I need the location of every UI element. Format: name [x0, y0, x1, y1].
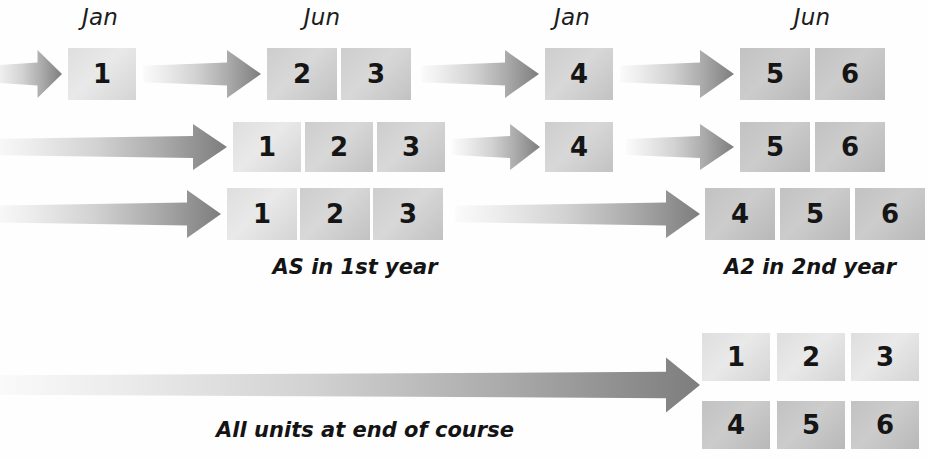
- summary-unit-box-2: 2: [777, 333, 845, 381]
- row-3-unit-box-4: 4: [705, 188, 775, 240]
- row-3-unit-box-6: 6: [855, 188, 925, 240]
- caption-as-first-year: AS in 1st year: [245, 255, 465, 279]
- summary-unit-box-5: 5: [777, 401, 845, 449]
- arrow-all-units: [0, 355, 700, 415]
- caption-all-units: All units at end of course: [195, 418, 535, 442]
- row-3-unit-box-2: 2: [300, 188, 370, 240]
- row-3-unit-box-1: 1: [227, 188, 297, 240]
- summary-unit-box-4: 4: [702, 401, 770, 449]
- summary-unit-box-1: 1: [702, 333, 770, 381]
- arrow-to-units-1-2-3: [0, 188, 221, 240]
- row-3-unit-box-5: 5: [780, 188, 850, 240]
- caption-a2-second-year: A2 in 2nd year: [700, 255, 920, 279]
- summary-unit-box-3: 3: [851, 333, 919, 381]
- arrow-to-units-4-5-6: [455, 188, 700, 240]
- row-3-unit-box-3: 3: [373, 188, 443, 240]
- unit-timeline-diagram: JanJunJanJun 123456123456123456 AS in 1s…: [0, 0, 927, 458]
- summary-unit-box-6: 6: [851, 401, 919, 449]
